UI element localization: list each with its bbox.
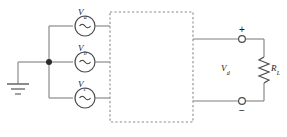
negative-sign-label: − <box>239 106 245 116</box>
negative-terminal <box>239 98 246 105</box>
source-b-label: Vb <box>78 44 87 55</box>
ac-source-a-symbol <box>75 16 110 36</box>
ac-source-c-symbol <box>75 88 110 108</box>
earth-ground-icon <box>7 62 49 94</box>
load-resistor-label: RL <box>271 64 280 75</box>
neutral-junction-dot <box>46 59 52 65</box>
neutral-bus-wires <box>49 26 73 98</box>
positive-terminal <box>239 36 246 43</box>
circuit-diagram-figure: Va Vb Vc + − Vd RL <box>0 0 287 137</box>
source-a-label: Va <box>78 8 87 19</box>
source-c-label: Vc <box>78 80 86 91</box>
circuit-schematic-canvas <box>0 0 287 137</box>
load-resistor-symbol <box>259 57 269 83</box>
positive-sign-label: + <box>239 25 245 35</box>
output-voltage-label: Vd <box>221 64 230 75</box>
ac-source-b-symbol <box>75 52 110 72</box>
converter-block <box>110 12 193 122</box>
